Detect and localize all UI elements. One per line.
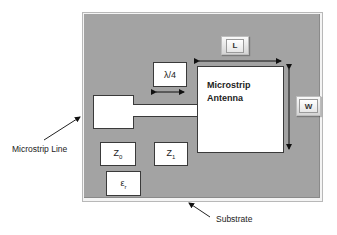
- microstrip-line-pointer: [44, 117, 80, 140]
- substrate-pointer: [189, 203, 210, 217]
- dimension-arrows: [0, 0, 337, 235]
